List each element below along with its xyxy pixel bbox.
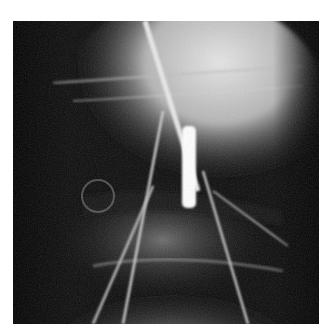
xray-rendering xyxy=(13,21,319,324)
xray-image xyxy=(13,21,319,324)
